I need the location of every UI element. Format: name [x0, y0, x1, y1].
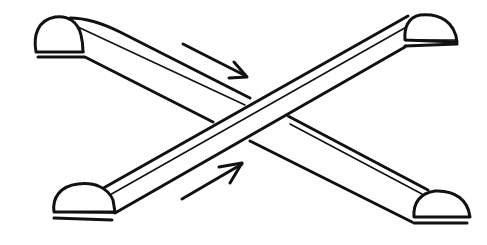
escalator-cap-top-right	[405, 15, 457, 46]
escalator-cap-bottom-left	[54, 184, 115, 220]
escalator-cap-bottom-right	[414, 191, 470, 223]
escalator-drawing	[0, 0, 487, 245]
escalator-diagram	[0, 0, 487, 245]
